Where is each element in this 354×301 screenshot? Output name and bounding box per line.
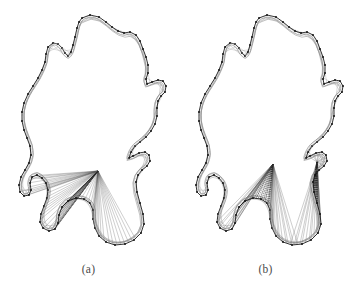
- shape-diagram-b: [177, 0, 354, 268]
- figure-panel-b: (b): [177, 0, 354, 301]
- panel-label-a: (a): [0, 262, 177, 276]
- figure-root: (a) (b): [0, 0, 354, 301]
- correspondence-fan-group: [20, 171, 135, 245]
- contour-vertex-markers: [18, 14, 167, 246]
- figure-panel-a: (a): [0, 0, 177, 301]
- contour-vertex-markers: [195, 14, 344, 246]
- panel-label-b: (b): [177, 262, 354, 276]
- shape-diagram-a: [0, 0, 177, 268]
- correspondence-fan-group: [217, 152, 327, 245]
